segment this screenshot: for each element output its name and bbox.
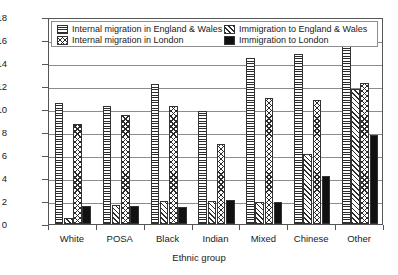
- legend-entry: Immigration to London: [224, 35, 329, 45]
- x-category-label: White: [48, 233, 96, 244]
- legend-entry: Internal migration in London: [57, 35, 184, 45]
- bar: [169, 106, 178, 224]
- bar: [73, 124, 82, 224]
- bar: [255, 202, 264, 224]
- bar: [55, 103, 64, 224]
- bar: [294, 54, 303, 224]
- bar: [370, 135, 379, 224]
- bar: [121, 115, 130, 224]
- bar: [360, 83, 369, 224]
- bar: [160, 201, 169, 224]
- x-category-label: Black: [144, 233, 192, 244]
- gridline: [49, 65, 382, 66]
- bar: [217, 144, 226, 225]
- x-tick-mark: [96, 225, 97, 230]
- bar: [322, 176, 331, 224]
- bar: [64, 218, 73, 224]
- y-tick-label: 16: [0, 36, 7, 46]
- x-category-label: Mixed: [239, 233, 287, 244]
- legend-entry: Internal migration in England & Wales: [57, 24, 222, 34]
- legend-swatch-icon: [224, 25, 235, 34]
- y-tick-label: 4: [0, 174, 7, 184]
- legend-label: Internal migration in London: [72, 35, 184, 45]
- x-tick-mark: [383, 225, 384, 230]
- y-tick-label: 0: [0, 220, 7, 230]
- x-tick-mark: [144, 225, 145, 230]
- x-tick-mark: [335, 225, 336, 230]
- x-axis-title: Ethnic group: [0, 252, 398, 263]
- bar: [274, 202, 283, 224]
- y-tick-label: 14: [0, 59, 7, 69]
- x-tick-mark: [287, 225, 288, 230]
- bar: [313, 100, 322, 224]
- bar: [198, 111, 207, 224]
- bar: [246, 58, 255, 224]
- legend-swatch-icon: [224, 36, 235, 45]
- plot-area: [48, 18, 383, 225]
- migration-rate-bar-chart: Migration rate (%) 024681012141618 White…: [0, 0, 398, 275]
- x-category-label: Other: [335, 233, 383, 244]
- bar: [82, 206, 91, 224]
- chart-legend: Internal migration in England & WalesImm…: [51, 21, 378, 47]
- gridline: [49, 111, 382, 112]
- y-tick-label: 8: [0, 128, 7, 138]
- x-tick-mark: [48, 225, 49, 230]
- bar: [178, 207, 187, 224]
- gridline: [49, 157, 382, 158]
- legend-swatch-icon: [57, 25, 68, 34]
- y-tick-label: 6: [0, 151, 7, 161]
- legend-label: Internal migration in England & Wales: [72, 24, 222, 34]
- gridline: [49, 134, 382, 135]
- legend-entry: Immigration to England & Wales: [224, 24, 367, 34]
- bar: [151, 84, 160, 224]
- x-category-label: Indian: [192, 233, 240, 244]
- bar: [208, 201, 217, 224]
- bar: [226, 200, 235, 224]
- y-tick-label: 12: [0, 82, 7, 92]
- x-category-label: POSA: [96, 233, 144, 244]
- bar: [112, 205, 121, 224]
- bar: [265, 98, 274, 224]
- x-tick-mark: [192, 225, 193, 230]
- y-tick-label: 18: [0, 13, 7, 23]
- bar: [103, 106, 112, 224]
- gridline: [49, 88, 382, 89]
- bar: [130, 206, 139, 224]
- y-tick-label: 2: [0, 197, 7, 207]
- y-tick-label: 10: [0, 105, 7, 115]
- bar: [351, 89, 360, 224]
- bar: [342, 45, 351, 224]
- bar: [303, 154, 312, 224]
- legend-swatch-icon: [57, 36, 68, 45]
- gridline: [49, 180, 382, 181]
- legend-label: Immigration to London: [239, 35, 329, 45]
- legend-label: Immigration to England & Wales: [239, 24, 367, 34]
- x-category-label: Chinese: [287, 233, 335, 244]
- x-tick-mark: [239, 225, 240, 230]
